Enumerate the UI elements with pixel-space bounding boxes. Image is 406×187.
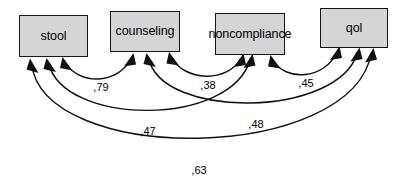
variable-box-noncompliance[interactable]: noncompliance xyxy=(215,13,285,55)
arrowhead-into-counseling-79 xyxy=(124,53,136,67)
correlation-diagram: stool counseling noncompliance qol ,79 ,… xyxy=(0,0,406,187)
arc-counseling-noncompliance xyxy=(167,52,247,76)
arrowhead-into-stool-47 xyxy=(44,58,57,72)
arrowhead-into-noncompliance-47 xyxy=(244,54,256,68)
arc-stool-qol xyxy=(27,48,378,138)
variable-label-stool: stool xyxy=(41,30,67,43)
correlation-label-counseling-qol: ,48 xyxy=(248,119,263,130)
arrowhead-into-qol-45 xyxy=(330,47,342,61)
arrowhead-into-noncompliance-45 xyxy=(268,55,281,69)
arrowhead-into-stool-79 xyxy=(60,57,73,71)
variable-label-noncompliance: noncompliance xyxy=(209,28,292,41)
correlation-label-stool-qol: ,63 xyxy=(191,165,206,176)
variable-label-counseling: counseling xyxy=(116,25,175,38)
correlation-label-stool-counseling: ,79 xyxy=(93,82,108,93)
variable-box-stool[interactable]: stool xyxy=(19,15,88,57)
arrowhead-into-stool-63 xyxy=(27,59,39,74)
arc-counseling-qol xyxy=(144,48,363,103)
arrowhead-into-noncompliance-38 xyxy=(234,54,246,68)
arrowhead-into-qol-63 xyxy=(365,48,377,63)
arc-path-stool-noncompliance xyxy=(49,59,251,111)
correlation-label-stool-noncompliance: ,47 xyxy=(140,126,155,137)
variable-box-qol[interactable]: qol xyxy=(320,8,388,48)
arrowhead-into-counseling-48 xyxy=(144,53,157,67)
arrowhead-into-counseling-38 xyxy=(167,52,180,66)
variable-label-qol: qol xyxy=(346,22,362,35)
arc-path-stool-qol xyxy=(32,53,372,139)
correlation-label-noncompliance-qol: ,45 xyxy=(298,78,313,89)
correlation-label-counseling-noncompliance: ,38 xyxy=(200,80,215,91)
variable-box-counseling[interactable]: counseling xyxy=(110,11,180,52)
arrowhead-into-qol-48 xyxy=(351,48,363,62)
arc-path-stool-counseling xyxy=(65,58,132,80)
arc-path-counseling-noncompliance xyxy=(171,57,241,77)
